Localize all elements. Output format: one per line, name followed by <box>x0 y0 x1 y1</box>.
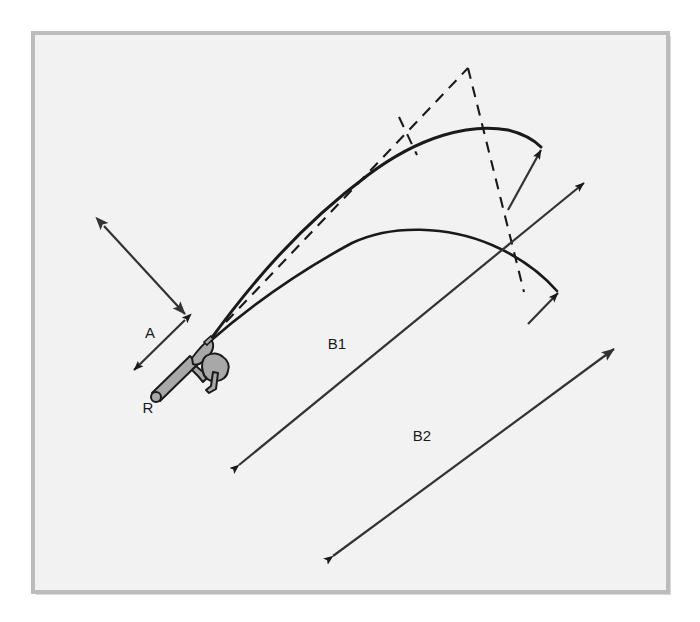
casting-diagram-svg: R A B1 B2 <box>0 0 700 622</box>
frame-border <box>33 33 668 592</box>
label-arc-a: A <box>145 324 155 341</box>
label-arc-b1: B1 <box>328 335 346 352</box>
diagram-frame <box>33 33 671 595</box>
label-rod: R <box>143 399 154 416</box>
label-arc-b2: B2 <box>413 427 431 444</box>
figure-root: R A B1 B2 <box>0 0 700 622</box>
